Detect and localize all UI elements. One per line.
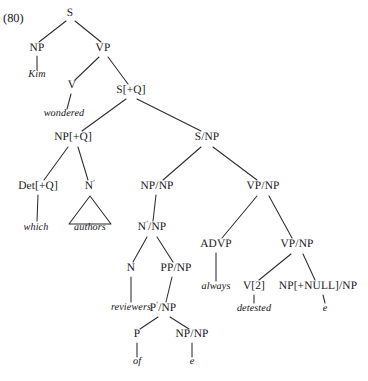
node-v-main: V (68, 79, 77, 91)
node-pp-slash-np: PP/NP (160, 262, 191, 274)
terminal-wondered: wondered (44, 108, 85, 119)
terminal-always: always (202, 281, 231, 292)
terminal-which: which (24, 222, 49, 233)
node-s-plus-q: S[+Q] (116, 84, 145, 96)
node-np-subj: NP (30, 42, 45, 54)
node-nbar-slash-np: N′/NP (138, 219, 167, 234)
node-det-plus-q: Det[+Q] (18, 180, 58, 192)
node-p-of: P (134, 328, 141, 340)
node-s-slash-np: S/NP (195, 131, 220, 143)
terminal-e-pp: e (190, 356, 195, 367)
terminal-authors: authors (74, 222, 106, 233)
node-vp-main: VP (96, 42, 111, 54)
terminal-kim: Kim (27, 69, 45, 80)
node-v-2: V[2] (243, 280, 265, 292)
terminal-of: of (133, 356, 142, 367)
terminal-e-obj: e (323, 303, 328, 314)
node-advp: ADVP (200, 238, 232, 250)
node-np-null-slash: NP[+NULL]/NP (279, 280, 357, 292)
node-vp-slash-np-1: VP/NP (246, 180, 279, 192)
node-pbar-slash-np: P′/NP (150, 300, 177, 315)
node-n-reviewers: N (127, 262, 135, 274)
terminal-detested: detested (237, 303, 272, 314)
syntax-tree-canvas: SNPVPVS[+Q]NP[+Q]S/NPDet[+Q]N′NP/NPVP/NP… (0, 0, 368, 381)
node-np-plus-q: NP[+Q] (54, 131, 92, 143)
node-s-root: S (67, 7, 74, 19)
syntax-tree-figure: SNPVPVS[+Q]NP[+Q]S/NPDet[+Q]N′NP/NPVP/NP… (0, 0, 368, 381)
example-number: (80) (3, 11, 24, 25)
node-np-slash-np-1: NP/NP (140, 180, 173, 192)
node-np-slash-np-2: NP/NP (175, 328, 208, 340)
terminal-reviewers: reviewers (111, 302, 151, 313)
node-vp-slash-np-2: VP/NP (280, 238, 313, 250)
